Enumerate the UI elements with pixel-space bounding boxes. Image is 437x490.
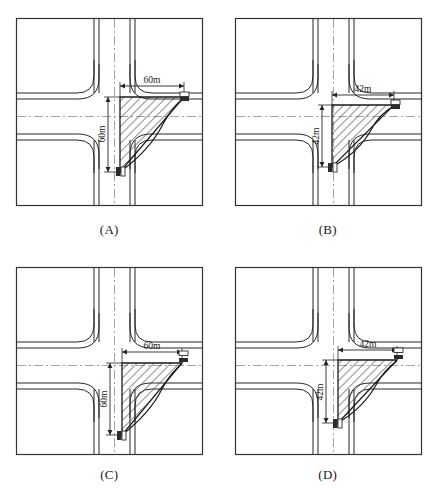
diagram-panel-b: 42m 42m (B) xyxy=(219,0,437,245)
panel-c-vertical-dimension-label: 60m xyxy=(99,390,109,408)
panel-b-vertical-dimension-label: 42m xyxy=(311,127,321,145)
panel-a-roads xyxy=(17,19,202,205)
panel-c-drawing: 60m 60m xyxy=(0,245,218,467)
panel-d-drawing: 42m 42m xyxy=(219,245,437,467)
panel-b-vehicle-marker-right xyxy=(391,100,400,109)
panel-a-vehicle-marker-bottom xyxy=(116,167,125,176)
diagram-panel-c: 60m 60m (C) xyxy=(0,245,219,490)
panel-a-vertical-dimension-label: 60m xyxy=(97,125,107,143)
diagram-panel-a: 60m 60m (A) xyxy=(0,0,219,245)
figure-panel-grid: 60m 60m (A) xyxy=(0,0,437,490)
panel-a-drawing: 60m 60m xyxy=(0,0,218,222)
panel-a-caption: (A) xyxy=(100,223,119,236)
panel-d-horizontal-dimension-label: 42m xyxy=(359,339,377,349)
panel-d-vehicle-marker-bottom xyxy=(333,419,342,428)
panel-b-caption: (B) xyxy=(319,223,337,236)
panel-a-horizontal-dimension-label: 60m xyxy=(144,75,162,85)
panel-c-horizontal-dimension-label: 60m xyxy=(144,341,162,351)
panel-c-vehicle-marker-bottom xyxy=(117,431,126,440)
panel-b-roads xyxy=(236,19,421,205)
panel-c-sight-triangle xyxy=(122,363,182,435)
diagram-panel-d: 42m 42m (D) xyxy=(219,245,437,490)
panel-d-caption: (D) xyxy=(318,468,337,481)
panel-b-vehicle-marker-bottom xyxy=(328,163,337,172)
panel-d-vertical-dimension-label: 42m xyxy=(315,383,325,401)
panel-c-roads xyxy=(17,268,202,454)
panel-c-frame xyxy=(17,268,203,455)
panel-b-sight-triangle xyxy=(332,105,394,167)
panel-a-vehicle-marker-right xyxy=(180,92,189,101)
panel-c-vehicle-marker-right xyxy=(179,351,188,362)
panel-c-caption: (C) xyxy=(100,468,118,481)
panel-a-frame xyxy=(17,19,203,206)
panel-d-sight-triangle xyxy=(338,360,397,423)
panel-b-horizontal-dimension-label: 42m xyxy=(354,84,372,94)
panel-b-frame xyxy=(235,19,421,206)
panel-d-vehicle-marker-right xyxy=(394,348,403,359)
panel-b-drawing: 42m 42m xyxy=(219,0,437,222)
